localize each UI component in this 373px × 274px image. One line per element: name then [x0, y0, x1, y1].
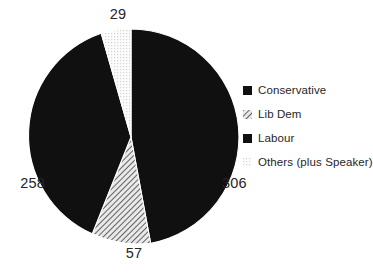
legend-label-lib-dem: Lib Dem: [258, 108, 302, 120]
solid-square-marker-icon: [243, 134, 252, 143]
pie-slice-conservative: [131, 29, 239, 243]
chart-legend: Conservative Lib Dem Labour Others (plus…: [243, 78, 371, 174]
solid-square-marker-icon: [243, 86, 252, 95]
data-label-labour: 258: [3, 175, 45, 191]
legend-item-others: Others (plus Speaker): [243, 150, 371, 174]
legend-item-labour: Labour: [243, 126, 371, 150]
legend-label-conservative: Conservative: [258, 84, 326, 96]
legend-label-labour: Labour: [258, 132, 294, 144]
hatched-square-marker-icon: [243, 110, 252, 119]
legend-item-conservative: Conservative: [243, 78, 371, 102]
data-label-others: 29: [97, 6, 139, 22]
data-label-lib-dem: 57: [113, 245, 155, 261]
dotted-square-marker-icon: [243, 158, 252, 167]
legend-label-others: Others (plus Speaker): [258, 156, 373, 168]
pie-chart-figure: 29 258 57 306 Conservative Lib Dem Labou…: [0, 0, 373, 274]
legend-item-lib-dem: Lib Dem: [243, 102, 371, 126]
data-label-conservative: 306: [222, 175, 266, 191]
